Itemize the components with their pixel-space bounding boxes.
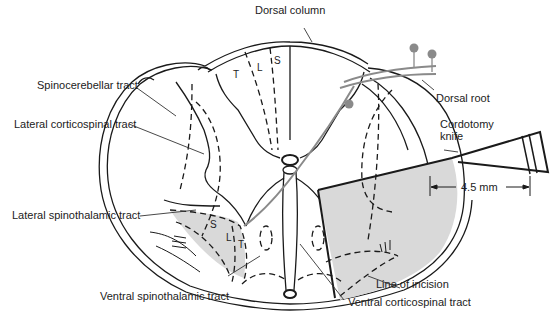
zone-dorsal-t: T	[233, 70, 239, 80]
label-cordotomy-knife-line2: knife	[440, 130, 463, 142]
label-dorsal-root: Dorsal root	[436, 92, 490, 104]
cordotomy-diagram: Dorsal column Spinocerebellar tract Late…	[0, 0, 554, 313]
zone-dorsal-l: L	[257, 63, 263, 73]
label-ventral-spinothalamic-tract: Ventral spinothalamic tract	[100, 290, 229, 302]
zone-spinothalamic-s: S	[210, 220, 217, 230]
label-ventral-corticospinal-tract: Ventral corticospinal tract	[348, 296, 471, 308]
spinal-cord-drawing	[0, 0, 554, 313]
label-measurement: 4.5 mm	[461, 181, 498, 193]
label-line-of-incision: Line of incision	[376, 278, 449, 290]
label-lateral-spinothalamic-tract: Lateral spinothalamic tract	[12, 209, 140, 221]
zone-dorsal-s: S	[274, 56, 281, 66]
label-lateral-corticospinal-tract: Lateral corticospinal tract	[14, 118, 136, 130]
label-dorsal-column: Dorsal column	[255, 4, 325, 16]
label-spinocerebellar-tract: Spinocerebellar tract	[37, 79, 138, 91]
label-cordotomy-knife-line1: Cordotomy	[440, 118, 494, 130]
zone-spinothalamic-l: L	[226, 233, 232, 243]
zone-spinothalamic-t: T	[238, 240, 244, 250]
